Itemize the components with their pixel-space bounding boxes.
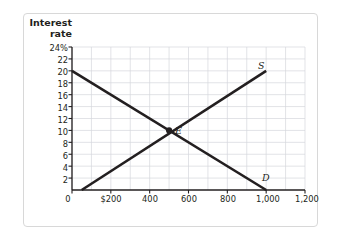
x-tick-label: 0: [65, 194, 70, 204]
y-tick-label: 18: [26, 80, 68, 88]
y-tick-label: 12: [26, 116, 68, 124]
y-tick-label: 10: [26, 128, 68, 136]
y-tick-label: 6: [26, 152, 68, 160]
loanable-funds-chart: Interestrate 24% 22 20 18 16 14 12 10 8 …: [0, 0, 340, 242]
plot-svg: [72, 47, 305, 190]
x-tick-label: 1,200: [295, 194, 319, 204]
y-tick-label: 2: [26, 176, 68, 184]
y-tick-label: 16: [26, 92, 68, 100]
gridlines: [72, 47, 305, 190]
y-tick-label: 8: [26, 140, 68, 148]
y-tick-label: 14: [26, 104, 68, 112]
supply-curve-label: S: [258, 60, 265, 71]
x-tick-label: 600: [181, 194, 197, 204]
y-tick-label: 4: [26, 164, 68, 172]
x-axis-tick-labels: 0 $200 400 600 800 1,000 1,200: [0, 194, 340, 208]
equilibrium-marker: [166, 127, 172, 133]
y-tick-label: 24%: [26, 44, 68, 52]
y-tick-label: 22: [26, 56, 68, 64]
demand-curve-label: D: [262, 172, 270, 183]
x-tick-label: 800: [220, 194, 236, 204]
plot-area: [72, 47, 305, 190]
equilibrium-label: E: [175, 125, 182, 136]
x-tick-label: 400: [142, 194, 158, 204]
y-tick-label: 20: [26, 68, 68, 76]
x-tick-label: $200: [100, 194, 121, 204]
x-tick-label: 1,000: [256, 194, 280, 204]
equilibrium-dot: [166, 127, 172, 133]
